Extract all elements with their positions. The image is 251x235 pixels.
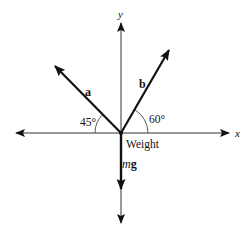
mass-symbol: m [122,157,131,171]
force-diagram: x y a 45° b 60° Weight mg [0,0,251,235]
weight-vector-label: mg [122,157,137,171]
origin-point [119,131,123,135]
weight-caption: Weight [126,138,160,151]
y-axis-label: y [117,8,123,20]
gravity-symbol: g [131,157,137,171]
vector-b-label: b [139,77,146,91]
angle-arc-60 [135,110,149,133]
vector-a-label: a [85,85,91,99]
x-axis-label: x [234,127,240,139]
angle-label-60: 60° [149,113,166,125]
angle-arc-45 [95,115,103,133]
angle-label-45: 45° [80,116,97,128]
